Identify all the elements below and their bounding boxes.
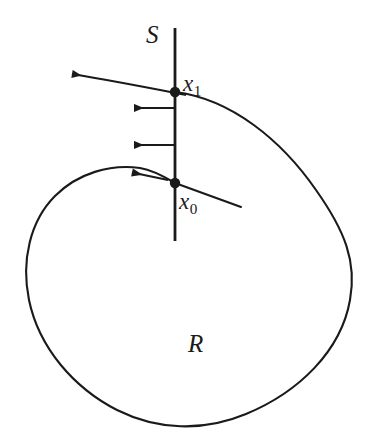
label-point-x0: x0 <box>179 190 197 213</box>
diagram-canvas <box>0 0 375 447</box>
label-region-R: R <box>188 331 203 356</box>
label-point-x1: x1 <box>183 72 201 95</box>
closed-orbit-curve-R <box>26 92 352 426</box>
trajectory-through-x1 <box>72 74 186 95</box>
point-marker-x1 <box>170 87 180 97</box>
label-section-S: S <box>146 22 159 47</box>
figure-root: S x1 x0 R <box>0 0 375 447</box>
point-marker-x0 <box>170 178 180 188</box>
